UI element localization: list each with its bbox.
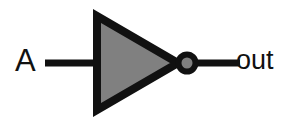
input-pin-label: A xyxy=(15,45,36,76)
output-pin-label: out xyxy=(236,47,274,74)
logic-gate-diagram: A out xyxy=(0,0,288,128)
inversion-bubble-icon xyxy=(179,55,196,72)
